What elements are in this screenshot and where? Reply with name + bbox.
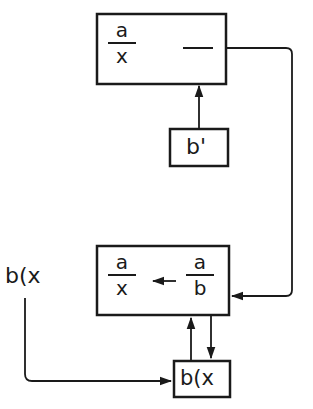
prime-box-label: b' <box>186 136 206 158</box>
bx-box-label: b(x <box>180 368 214 389</box>
input-label: b(x <box>5 265 41 287</box>
bottom-left-numerator: a <box>116 252 128 272</box>
bottom-left-denominator: x <box>116 278 128 298</box>
bottom-right-numerator: a <box>194 252 206 272</box>
bottom-left-fraction: a x <box>108 252 136 298</box>
feedback-connector <box>226 48 292 296</box>
bottom-right-fraction: a b <box>186 252 214 298</box>
top-fraction-denominator: x <box>116 46 128 66</box>
top-box-fraction: a x <box>108 20 136 66</box>
top-fraction-numerator: a <box>116 20 128 40</box>
bottom-right-denominator: b <box>194 278 207 298</box>
diagram-canvas <box>0 0 313 409</box>
